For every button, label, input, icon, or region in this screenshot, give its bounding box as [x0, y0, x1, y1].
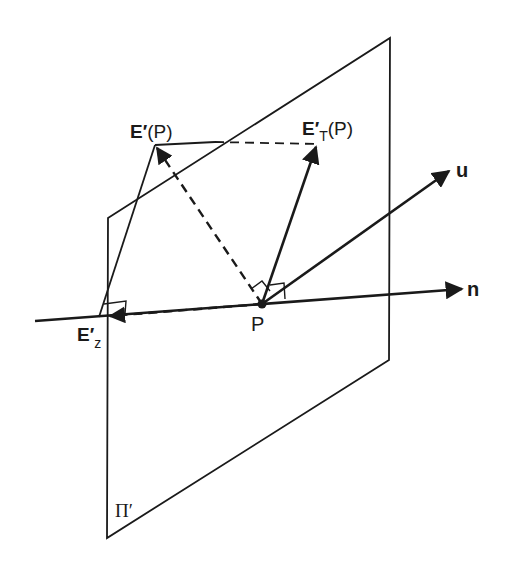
label-n: n: [467, 278, 479, 300]
label-p: P: [251, 313, 264, 335]
vector-u-arrow: [262, 171, 449, 304]
label-plane-pi-prime: Π′: [115, 500, 133, 521]
diagram-canvas: E′(P) E′T(P) E′z u n P Π′: [0, 0, 505, 573]
label-e-prime-p: E′(P): [130, 121, 173, 142]
point-p-dot: [258, 300, 267, 309]
vector-e-prime-p-dashed-arrow: [157, 148, 262, 304]
plane-pi-prime: [107, 38, 390, 538]
vector-e-prime-t-arrow: [262, 147, 316, 304]
label-e-prime-t: E′T(P): [302, 118, 353, 144]
edge-ep-to-et-dashed: [215, 142, 317, 144]
edge-ep-to-et-solid: [155, 142, 215, 145]
label-e-prime-z: E′z: [77, 324, 101, 351]
label-u: u: [456, 159, 468, 181]
